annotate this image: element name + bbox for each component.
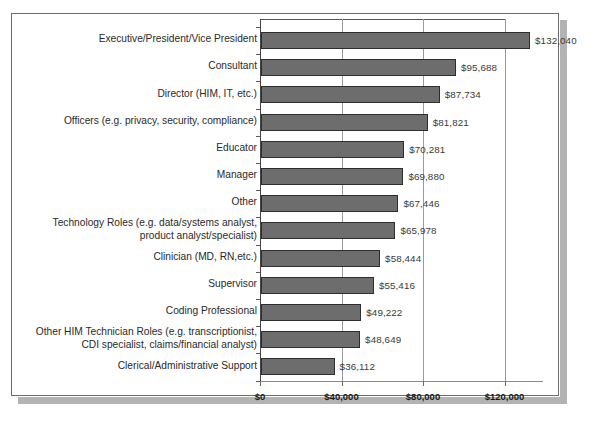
x-tick-40000 — [342, 381, 343, 386]
category-label: Clinician (MD, RN,etc.) — [153, 251, 257, 264]
gridline-120000 — [505, 19, 506, 382]
y-tick — [256, 190, 260, 191]
category-label: Executive/President/Vice President — [99, 33, 257, 46]
bar[interactable] — [261, 304, 361, 321]
category-label: Director (HIM, IT, etc.) — [157, 88, 257, 101]
x-tick-label-40000: $40,000 — [324, 391, 358, 402]
y-tick — [256, 54, 260, 55]
bar-value-label: $95,688 — [461, 62, 497, 73]
bar[interactable] — [261, 114, 428, 131]
bar-chart: Executive/President/Vice PresidentConsul… — [12, 14, 560, 397]
bar-value-label: $87,734 — [445, 89, 481, 100]
bar[interactable] — [261, 250, 380, 267]
x-tick-120000 — [505, 381, 506, 386]
bar-value-label: $70,281 — [409, 144, 445, 155]
bar-value-label: $58,444 — [385, 253, 421, 264]
x-tick-label-0: $0 — [255, 391, 266, 402]
figure-drop-shadow-right — [560, 20, 567, 403]
plot-region: $132,040$95,688$87,734$81,821$70,281$69,… — [260, 19, 505, 382]
bar-value-label: $55,416 — [379, 280, 415, 291]
y-tick — [256, 245, 260, 246]
bar[interactable] — [261, 358, 335, 375]
bar-value-label: $67,446 — [403, 198, 439, 209]
x-tick-0 — [260, 381, 261, 386]
category-label: Clerical/Administrative Support — [118, 360, 257, 373]
category-label: Other — [232, 196, 257, 209]
category-label: Other HIM Technician Roles (e.g. transcr… — [36, 326, 257, 351]
y-tick — [256, 299, 260, 300]
category-label: Educator — [216, 142, 257, 155]
bar[interactable] — [261, 222, 395, 239]
y-tick — [256, 136, 260, 137]
bar[interactable] — [261, 32, 530, 49]
bar-value-label: $36,112 — [340, 361, 375, 372]
bar-value-label: $48,649 — [365, 334, 401, 345]
y-tick — [256, 163, 260, 164]
category-label: Coding Professional — [166, 305, 257, 318]
y-tick — [256, 326, 260, 327]
y-tick — [256, 27, 260, 28]
category-label: Officers (e.g. privacy, security, compli… — [64, 115, 257, 128]
category-label: Consultant — [208, 60, 257, 73]
bar-value-label: $81,821 — [433, 117, 469, 128]
bar[interactable] — [261, 59, 456, 76]
x-tick-label-80000: $80,000 — [406, 391, 440, 402]
bar[interactable] — [261, 86, 440, 103]
y-tick — [256, 217, 260, 218]
bar-value-label: $132,040 — [535, 35, 577, 46]
bar[interactable] — [261, 277, 374, 294]
category-label: Supervisor — [208, 278, 257, 291]
y-tick — [256, 109, 260, 110]
plot-top-rule — [260, 19, 505, 20]
bar-value-label: $65,978 — [400, 225, 436, 236]
figure-frame: Executive/President/Vice PresidentConsul… — [11, 13, 559, 396]
category-label: Manager — [217, 169, 257, 182]
bar-value-label: $49,222 — [366, 307, 402, 318]
bar[interactable] — [261, 331, 360, 348]
y-tick — [256, 353, 260, 354]
bar[interactable] — [261, 195, 398, 212]
y-tick — [256, 81, 260, 82]
y-tick — [256, 272, 260, 273]
bar[interactable] — [261, 168, 403, 185]
category-label: Technology Roles (e.g. data/systems anal… — [53, 217, 257, 242]
x-tick-80000 — [423, 381, 424, 386]
x-axis-line — [260, 381, 543, 382]
bar-value-label: $69,880 — [408, 171, 444, 182]
bar[interactable] — [261, 141, 404, 158]
x-tick-label-120000: $120,000 — [485, 391, 525, 402]
